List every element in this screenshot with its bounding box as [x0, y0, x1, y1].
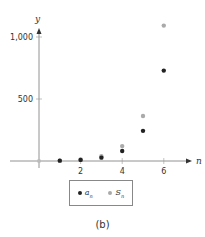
data-point-s-n [141, 114, 145, 118]
data-point-a-n [120, 149, 124, 153]
x-tick-label: 2 [78, 167, 83, 176]
data-point-s-n [120, 144, 124, 148]
data-point-s-n [162, 23, 166, 27]
x-tick-label: 6 [161, 167, 166, 176]
figure-caption: (b) [0, 219, 205, 230]
legend-label-s-n: Sn [115, 188, 124, 199]
origin-marker [37, 159, 41, 163]
legend-swatch-s-n [108, 191, 112, 195]
data-point-a-n [99, 155, 103, 159]
legend-item-a-n: an [78, 188, 93, 199]
x-axis-arrow-icon [186, 159, 192, 164]
y-tick-label: 500 [18, 95, 33, 104]
legend-label-a-n: an [85, 188, 93, 199]
legend-swatch-a-n [78, 191, 82, 195]
data-point-a-n [58, 158, 62, 162]
legend: an Sn [69, 180, 133, 206]
data-points [37, 23, 166, 163]
legend-item-s-n: Sn [108, 188, 124, 199]
y-ticks: 5001,000 [10, 33, 42, 104]
data-point-a-n [162, 68, 166, 72]
y-tick-label: 1,000 [10, 33, 33, 42]
data-point-a-n [78, 158, 82, 162]
data-point-a-n [141, 129, 145, 133]
x-tick-label: 4 [120, 167, 125, 176]
x-axis-label: n [196, 156, 202, 166]
y-axis-arrow-icon [37, 28, 42, 34]
y-axis-label: y [34, 14, 41, 24]
